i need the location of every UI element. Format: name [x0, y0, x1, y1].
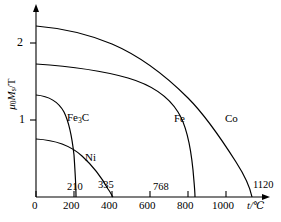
x-tick-label-800: 800: [177, 200, 194, 211]
plot-area: [0, 0, 281, 222]
curve-label-co: Co: [225, 113, 238, 124]
y-axis-label-unit: /T: [5, 79, 17, 89]
y-tick-label-2: 2: [17, 36, 23, 48]
magnetization-temperature-chart: μ0Ms/T 2 1 0 200 400 600 800 1000 t/℃ Fe…: [0, 0, 281, 222]
x-axis-ticks: [36, 191, 226, 197]
y-tick-label-1: 1: [19, 113, 25, 125]
curve-label-fe3c: Fe3C: [67, 112, 89, 124]
x-axis-label-unit: /℃: [250, 200, 265, 211]
curve-label-fe3c-post: C: [82, 111, 89, 123]
x-tick-label-200: 200: [63, 200, 80, 211]
y-axis-label-m: M: [5, 91, 17, 100]
y-axis-label-mu: μ: [5, 104, 17, 110]
curve-label-ni: Ni: [85, 152, 96, 163]
curie-label-768: 768: [153, 182, 169, 193]
curie-label-1120: 1120: [253, 180, 274, 191]
y-axis-label-mu-sub: 0: [9, 100, 18, 104]
curve-label-fe: Fe: [174, 113, 185, 124]
curie-label-335: 335: [98, 180, 114, 191]
x-tick-label-600: 600: [139, 200, 156, 211]
x-tick-label-1000: 1000: [212, 200, 234, 211]
x-tick-label-400: 400: [101, 200, 118, 211]
curve-label-fe3c-pre: Fe: [67, 111, 78, 123]
y-axis-label: μ0Ms/T: [6, 62, 18, 126]
y-axis-label-m-sub: s: [9, 88, 18, 91]
y-axis: [33, 4, 39, 197]
curie-label-210: 210: [67, 182, 83, 193]
curve-fe: [36, 64, 195, 197]
y-axis-ticks: [30, 43, 36, 120]
x-axis-label: t/℃: [247, 201, 265, 212]
x-tick-label-0: 0: [32, 200, 38, 211]
